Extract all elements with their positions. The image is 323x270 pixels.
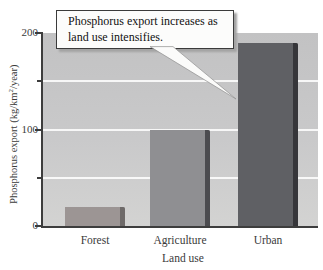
bar-agriculture-shading (205, 130, 210, 227)
bar-agriculture (150, 130, 210, 227)
x-axis-line (41, 226, 318, 228)
y-tick-label-200: 200 (6, 26, 38, 38)
bar-urban (238, 43, 298, 226)
x-axis-title: Land use (123, 252, 243, 264)
x-tick-label-forest: Forest (50, 234, 140, 246)
y-axis-line (41, 32, 43, 227)
bar-urban-shading (293, 43, 298, 226)
bar-forest (65, 207, 125, 226)
annotation-line-2: land use intensifies. (68, 30, 233, 46)
annotation-line-1: Phosphorus export increases as (68, 14, 233, 30)
y-axis-title: Phosphorus export (kg/km2/year) (7, 45, 20, 223)
y-axis-title-post: /year) (8, 65, 19, 89)
annotation-callout: Phosphorus export increases as land use … (56, 10, 234, 49)
phosphorus-export-bar-chart: 2001000 Forest Agriculture Urban Land us… (0, 0, 323, 270)
y-axis-title-sup: 2 (7, 89, 15, 93)
x-tick-label-agriculture: Agriculture (135, 234, 225, 246)
annotation-text: Phosphorus export increases as land use … (57, 11, 233, 46)
x-tick-label-urban: Urban (223, 234, 313, 246)
bar-forest-shading (120, 207, 125, 226)
y-axis-title-pre: Phosphorus export (kg/km (8, 93, 19, 204)
